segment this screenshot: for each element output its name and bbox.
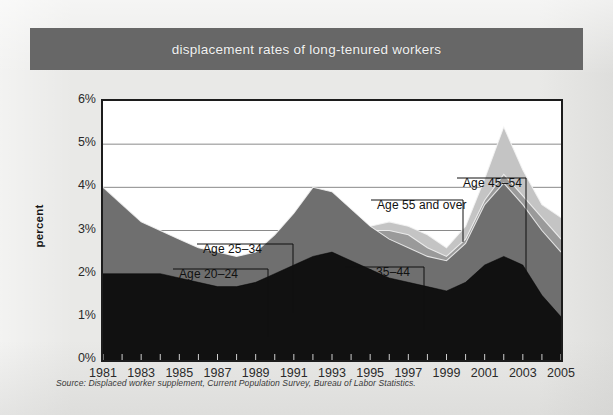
y-tick-label: 1% <box>62 308 96 322</box>
y-tick-label: 4% <box>62 178 96 192</box>
annotation-label-age-45-54: Age 45–54 <box>463 176 522 190</box>
series-areas <box>103 127 561 360</box>
x-tick-label: 2005 <box>547 366 575 380</box>
y-axis-title: percent <box>33 181 45 271</box>
plot-area <box>101 99 563 362</box>
y-tick-label: 6% <box>62 92 96 106</box>
annotation-label-age-25-34: Age 25–34 <box>203 242 262 256</box>
y-tick-label: 5% <box>62 135 96 149</box>
y-tick-label: 0% <box>62 351 96 365</box>
x-tick-label: 2003 <box>509 366 537 380</box>
source-note: Source: Displaced worker supplement, Cur… <box>56 378 416 388</box>
page-title: displacement rates of long-tenured worke… <box>172 42 441 57</box>
y-tick-label: 2% <box>62 265 96 279</box>
annotation-label-age-20-24: Age 20–24 <box>179 267 238 281</box>
x-tick-label: 1999 <box>433 366 461 380</box>
annotation-label-age-35-44: Age 35–44 <box>351 265 410 279</box>
chart-container: percent 0%1%2%3%4%5%6% 19811983198519871… <box>0 70 613 415</box>
annotation-label-age-55-over: Age 55 and over <box>377 198 467 212</box>
y-tick-label: 3% <box>62 222 96 236</box>
y-axis-tick-labels: 0%1%2%3%4%5%6% <box>58 70 96 370</box>
chart-title-band: displacement rates of long-tenured worke… <box>30 28 583 70</box>
plot-svg <box>103 101 561 360</box>
x-tick-label: 2001 <box>471 366 499 380</box>
chart-page: displacement rates of long-tenured worke… <box>0 0 613 415</box>
